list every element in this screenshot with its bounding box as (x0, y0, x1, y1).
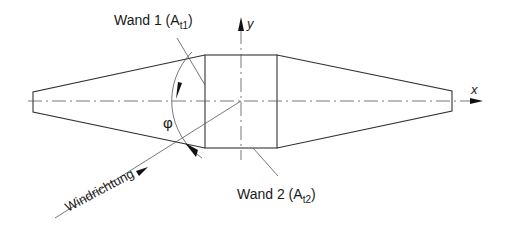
angle-label: φ (163, 114, 173, 131)
structure-diagram: Wand 1 (At1) Wand 2 (At2) Windrichtung φ… (0, 0, 508, 229)
x-axis-label: x (470, 82, 478, 97)
wind-arrow-icon (136, 167, 148, 176)
wall1-leader (177, 38, 205, 85)
arc-arrow-top-icon (176, 82, 182, 99)
axes (28, 30, 470, 160)
y-axis-label: y (246, 16, 255, 31)
x-axis-arrow-icon (470, 98, 483, 104)
wall1-label: Wand 1 (At1) (114, 12, 193, 31)
wall2-leader (253, 148, 278, 176)
y-axis-arrow-icon (238, 17, 244, 31)
structure-outline (33, 55, 452, 148)
wind-direction-label: Windrichtung (62, 166, 136, 215)
wall2-label: Wand 2 (At2) (237, 186, 316, 205)
